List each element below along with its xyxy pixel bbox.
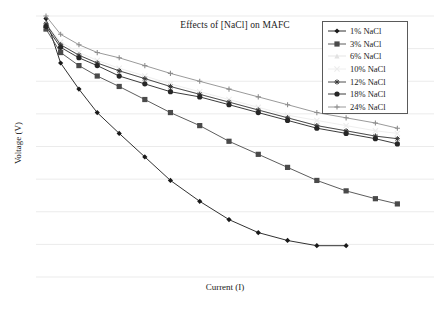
data-point (168, 84, 173, 89)
legend-label: 24% NaCl (349, 102, 386, 112)
legend-label: 12% NaCl (349, 77, 386, 87)
data-point (226, 102, 231, 107)
legend-label: 3% NaCl (349, 39, 381, 49)
data-point (314, 243, 319, 248)
data-point (142, 63, 147, 68)
data-point (197, 123, 202, 128)
legend-item-3-nacl[interactable]: 3% NaCl (325, 38, 405, 51)
data-point (58, 45, 63, 50)
series-1-nacl (43, 16, 348, 248)
data-point (226, 139, 231, 144)
legend-marker-icon (325, 76, 349, 88)
data-point (344, 115, 349, 120)
data-point (373, 196, 378, 201)
data-point (76, 55, 81, 60)
legend-label: 6% NaCl (349, 51, 381, 61)
data-point (395, 136, 400, 141)
legend-item-10-nacl[interactable]: 10% NaCl (325, 63, 405, 76)
data-point (344, 188, 349, 193)
data-point (314, 178, 319, 183)
chart-figure: Effects of [NaCl] on MAFC Voltage (V) Cu… (0, 0, 446, 314)
data-point (58, 60, 63, 65)
data-point (256, 94, 261, 99)
data-point (256, 152, 261, 157)
legend-item-1-nacl[interactable]: 1% NaCl (325, 25, 405, 38)
data-point (226, 86, 231, 91)
data-point (95, 50, 100, 55)
data-point (168, 89, 173, 94)
data-point (285, 165, 290, 170)
y-axis-label: Voltage (V) (13, 103, 23, 183)
legend-marker-icon (325, 63, 349, 75)
legend-label: 18% NaCl (349, 89, 386, 99)
data-point (373, 120, 378, 125)
data-point (117, 55, 122, 60)
legend-marker-icon (325, 25, 349, 37)
legend-item-12-nacl[interactable]: 12% NaCl (325, 75, 405, 88)
data-point (334, 29, 339, 34)
chart-legend[interactable]: 1% NaCl3% NaCl6% NaCl10% NaCl12% NaCl18%… (322, 21, 408, 114)
data-point (395, 141, 400, 146)
data-point (334, 104, 339, 109)
data-point (197, 79, 202, 84)
data-point (58, 50, 63, 55)
data-point (142, 76, 147, 81)
data-point (256, 110, 261, 115)
chart-title: Effects of [NaCl] on MAFC (150, 20, 320, 30)
data-point (285, 238, 290, 243)
x-axis-label: Current (I) (145, 282, 305, 292)
data-point (142, 97, 147, 102)
data-point (395, 201, 400, 206)
data-point (95, 73, 100, 78)
legend-marker-icon (325, 88, 349, 100)
legend-item-18-nacl[interactable]: 18% NaCl (325, 88, 405, 101)
data-point (168, 71, 173, 76)
data-point (256, 230, 261, 235)
data-point (334, 92, 339, 97)
data-point (226, 217, 231, 222)
data-point (395, 126, 400, 131)
data-point (197, 94, 202, 99)
data-point (285, 118, 290, 123)
data-point (314, 110, 319, 115)
data-point (117, 84, 122, 89)
legend-marker-icon (325, 101, 349, 113)
data-point (95, 63, 100, 68)
data-point (334, 79, 339, 84)
data-point (285, 102, 290, 107)
legend-label: 10% NaCl (349, 64, 386, 74)
data-point (344, 243, 349, 248)
data-point (168, 110, 173, 115)
data-point (76, 42, 81, 47)
data-point (373, 136, 378, 141)
data-point (334, 41, 339, 46)
legend-label: 1% NaCl (349, 26, 381, 36)
data-point (142, 81, 147, 86)
data-point (314, 126, 319, 131)
data-point (43, 24, 48, 29)
data-point (117, 73, 122, 78)
legend-marker-icon (325, 38, 349, 50)
legend-item-6-nacl[interactable]: 6% NaCl (325, 50, 405, 63)
legend-item-24-nacl[interactable]: 24% NaCl (325, 101, 405, 114)
legend-marker-icon (325, 50, 349, 62)
data-point (76, 63, 81, 68)
data-point (344, 131, 349, 136)
